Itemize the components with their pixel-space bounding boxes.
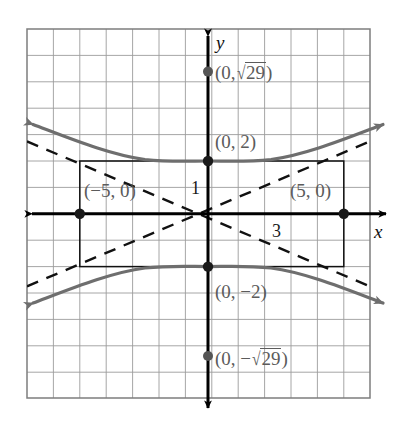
covertex-right-point [339, 209, 349, 219]
slope-rise-label: 1 [191, 179, 200, 197]
vertex-top-label: (0, 2) [215, 132, 256, 151]
focus-bottom-point [203, 351, 213, 361]
focus-top-point [203, 67, 213, 77]
slope-run-label: 3 [272, 222, 281, 240]
covertex-left-label: (−5, 0) [84, 181, 136, 200]
y-axis-label: y [216, 33, 224, 52]
covertex-left-point [75, 209, 85, 219]
x-axis-label: x [374, 222, 382, 241]
vertex-bottom-label: (0, −2) [215, 282, 267, 301]
focus-top-label: (0,√29) [215, 62, 272, 82]
covertex-right-label: (5, 0) [290, 181, 331, 200]
vertex-top-point [203, 156, 213, 166]
vertex-bottom-point [203, 261, 213, 271]
hyperbola-graph-figure: y x (0,√29) (0, 2) (−5, 0) (5, 0) (0, −2… [0, 0, 410, 428]
focus-bottom-label: (0, −√29) [215, 348, 288, 368]
graph-canvas [0, 0, 410, 428]
